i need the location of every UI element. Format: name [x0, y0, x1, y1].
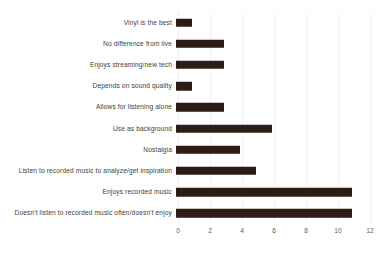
- bar: [176, 18, 192, 27]
- bar-row: Listen to recorded music to analyze/get …: [0, 160, 382, 181]
- x-tick-label: 4: [240, 226, 244, 236]
- bar-row: No difference from live: [0, 33, 382, 54]
- bar-row: Use as background: [0, 118, 382, 139]
- category-label: Nostalgia: [0, 146, 176, 154]
- bar-track: [176, 12, 382, 33]
- x-axis-ticks: 024681012: [178, 226, 370, 240]
- bar-row: Doesn't listen to recorded music often/d…: [0, 203, 382, 224]
- bar: [176, 145, 240, 154]
- bar-track: [176, 33, 382, 54]
- category-label: Allows for listening alone: [0, 103, 176, 111]
- bar-track: [176, 182, 382, 203]
- bar-chart: Vinyl is the bestNo difference from live…: [0, 0, 382, 259]
- bar-track: [176, 160, 382, 181]
- bar: [176, 40, 224, 49]
- bar: [176, 188, 352, 197]
- category-label: Enjoys recorded music: [0, 188, 176, 196]
- bar-track: [176, 97, 382, 118]
- bar: [176, 167, 256, 176]
- bar-track: [176, 54, 382, 75]
- bar-row: Nostalgia: [0, 139, 382, 160]
- category-label: Listen to recorded music to analyze/get …: [0, 167, 176, 175]
- x-tick-label: 8: [304, 226, 308, 236]
- category-label: Doesn't listen to recorded music often/d…: [0, 209, 176, 217]
- bar-track: [176, 203, 382, 224]
- x-tick-label: 2: [208, 226, 212, 236]
- category-label: Use as background: [0, 125, 176, 133]
- x-tick-label: 0: [176, 226, 180, 236]
- category-label: Depends on sound quality: [0, 82, 176, 90]
- plot-area: Vinyl is the bestNo difference from live…: [0, 0, 382, 259]
- bar-row: Vinyl is the best: [0, 12, 382, 33]
- bar-row: Allows for listening alone: [0, 97, 382, 118]
- x-tick-label: 10: [334, 226, 341, 236]
- bar-rows: Vinyl is the bestNo difference from live…: [0, 12, 382, 224]
- bar: [176, 103, 224, 112]
- category-label: Enjoys streaming/new tech: [0, 61, 176, 69]
- bar-track: [176, 76, 382, 97]
- bar-row: Enjoys streaming/new tech: [0, 54, 382, 75]
- bar-row: Enjoys recorded music: [0, 182, 382, 203]
- bar: [176, 61, 224, 70]
- bar: [176, 209, 352, 218]
- x-tick-label: 12: [366, 226, 373, 236]
- bar-track: [176, 139, 382, 160]
- bar: [176, 82, 192, 91]
- x-tick-label: 6: [272, 226, 276, 236]
- bar: [176, 124, 272, 133]
- bar-row: Depends on sound quality: [0, 76, 382, 97]
- category-label: No difference from live: [0, 40, 176, 48]
- bar-track: [176, 118, 382, 139]
- category-label: Vinyl is the best: [0, 19, 176, 27]
